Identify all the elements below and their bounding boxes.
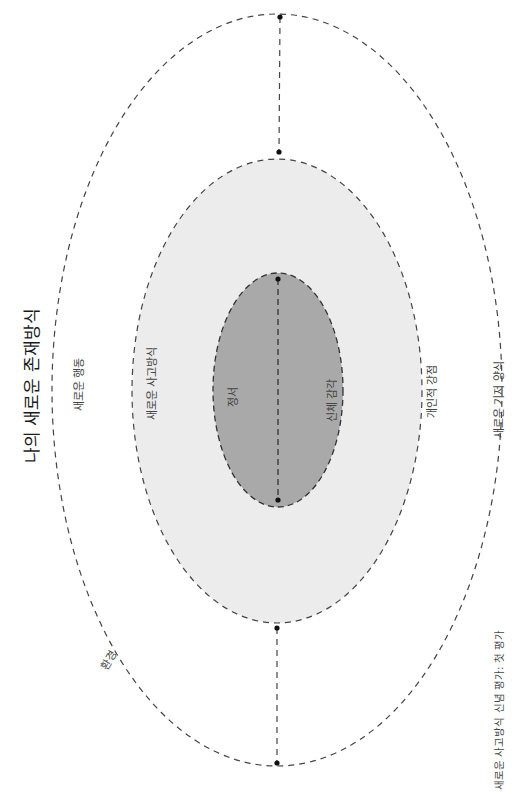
dot-inner-top (275, 276, 280, 281)
dot-middle-bottom (274, 625, 279, 630)
dot-inner-bottom (275, 497, 280, 502)
note-block: 새로운 사고방식 신념 평가: 첫 평가 는 '변용 수준'의 신념, 두 번째… (458, 580, 508, 790)
dot-middle-top (276, 149, 281, 154)
dot-outer-bottom (274, 760, 279, 765)
middle-label-thinking: 새로운 사고방식 (147, 334, 158, 434)
note-line-1: 새로운 사고방식 신념 평가: 첫 평가 (491, 580, 507, 790)
outer-label-base-mode: 새로운 기저 양식 (494, 345, 505, 455)
page-title: 나의 새로운 존재방식 (24, 296, 41, 476)
dot-outer-top (277, 14, 282, 19)
inner-label-emotion: 정서 (228, 377, 239, 417)
inner-label-body-sensation: 신체 감각 (327, 366, 338, 436)
middle-label-strengths: 개인적 강점 (427, 352, 438, 432)
outer-label-behavior: 새로운 행동 (74, 345, 85, 425)
